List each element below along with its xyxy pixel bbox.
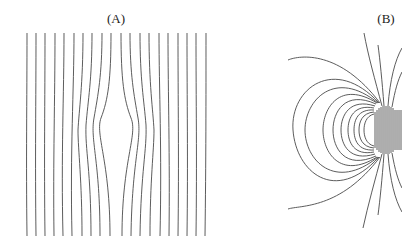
panel-b-field-lines: [288, 33, 402, 228]
dipole-loops: [288, 57, 380, 209]
dipole-radial-lines: [363, 33, 402, 228]
dipole-core: [375, 106, 401, 154]
field-lines-figure: [0, 0, 402, 249]
panel-a-field-lines: [27, 33, 206, 236]
